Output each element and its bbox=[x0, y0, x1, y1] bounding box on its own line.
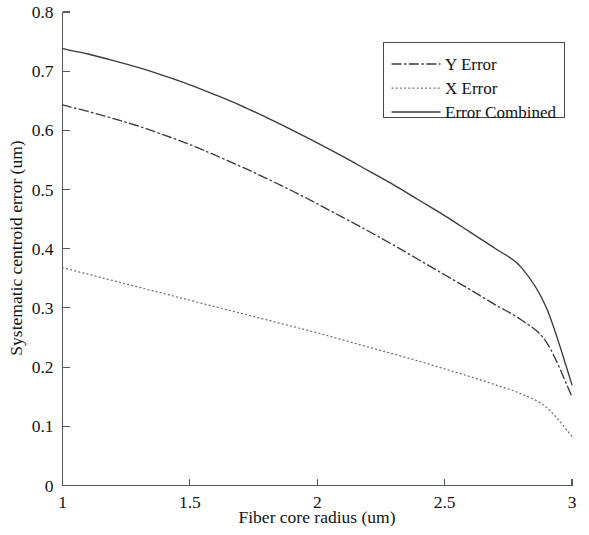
y-tick-label-1: 0.1 bbox=[32, 416, 54, 436]
x-tick-label-3: 2.5 bbox=[434, 492, 456, 512]
y-tick-label-8: 0.8 bbox=[32, 2, 54, 22]
y-tick-label-0: 0 bbox=[45, 476, 54, 496]
y-axis-title: Systematic centroid error (um) bbox=[6, 140, 26, 355]
legend-label: Error Combined bbox=[445, 103, 556, 122]
x-tick-label-1: 1.5 bbox=[179, 492, 201, 512]
x-axis-ticks bbox=[63, 479, 573, 486]
series-line-x-error bbox=[63, 268, 573, 437]
y-tick-label-7: 0.7 bbox=[32, 61, 54, 81]
chart-figure: 00.10.20.30.40.50.60.70.8 11.522.53 Fibe… bbox=[0, 0, 589, 535]
legend-label: X Error bbox=[445, 79, 498, 98]
y-tick-label-3: 0.3 bbox=[32, 298, 54, 318]
x-tick-label-4: 3 bbox=[568, 492, 577, 512]
legend-label: Y Error bbox=[445, 55, 497, 74]
chart-legend: Y ErrorX ErrorError Combined bbox=[384, 43, 565, 123]
x-tick-label-0: 1 bbox=[58, 492, 67, 512]
y-tick-label-4: 0.4 bbox=[32, 239, 54, 259]
y-axis-tick-labels: 00.10.20.30.40.50.60.70.8 bbox=[32, 2, 54, 496]
series-line-y-error bbox=[63, 105, 573, 397]
x-axis-title: Fiber core radius (um) bbox=[239, 507, 396, 527]
y-axis-ticks bbox=[63, 12, 70, 486]
chart-canvas: 00.10.20.30.40.50.60.70.8 11.522.53 Fibe… bbox=[0, 0, 589, 535]
y-tick-label-6: 0.6 bbox=[32, 120, 54, 140]
y-tick-label-2: 0.2 bbox=[32, 357, 54, 377]
y-tick-label-5: 0.5 bbox=[32, 180, 54, 200]
